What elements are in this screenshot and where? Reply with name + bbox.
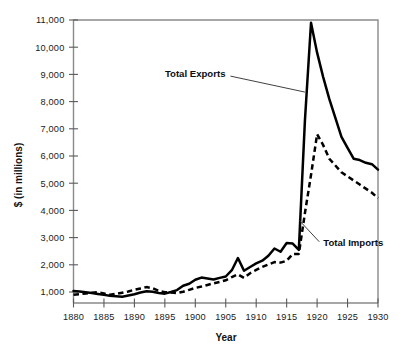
y-tick-label: 1,000: [41, 287, 65, 297]
annotation-total-imports: Total Imports: [299, 220, 384, 248]
x-tick-label: 1885: [93, 312, 114, 322]
y-tick-label: 9,000: [41, 70, 65, 80]
x-tick-label: 1910: [246, 312, 267, 322]
x-tick-label: 1905: [215, 312, 236, 322]
x-axis-tick-labels: 1880188518901895190019051910191519201925…: [63, 312, 389, 322]
y-tick-label: 4,000: [41, 206, 65, 216]
x-tick-label: 1895: [154, 312, 175, 322]
y-tick-label: 8,000: [41, 97, 65, 107]
x-tick-label: 1925: [337, 312, 358, 322]
y-tick-label: 5,000: [41, 179, 65, 189]
y-tick-label: 10,000: [35, 43, 64, 53]
annotation-label-total-exports: Total Exports: [165, 68, 226, 79]
x-axis-title: Year: [215, 332, 236, 343]
y-tick-label: 7,000: [41, 124, 65, 134]
y-axis-title: $ (in millions): [13, 143, 24, 207]
chart-container: 1,0002,0003,0004,0005,0006,0007,0008,000…: [0, 0, 403, 354]
y-tick-label: 3,000: [41, 233, 65, 243]
leader-line-exports: [230, 76, 304, 92]
line-chart: 1,0002,0003,0004,0005,0006,0007,0008,000…: [0, 0, 403, 354]
y-tick-label: 2,000: [41, 260, 65, 270]
x-tick-label: 1920: [306, 312, 327, 322]
series-line-total-imports: [74, 134, 379, 294]
x-tick-label: 1890: [124, 312, 145, 322]
x-tick-label: 1915: [276, 312, 297, 322]
x-tick-label: 1930: [367, 312, 388, 322]
x-axis-ticks: [74, 299, 379, 308]
x-tick-label: 1880: [63, 312, 84, 322]
series-line-total-exports: [74, 23, 379, 297]
y-tick-label: 6,000: [41, 151, 65, 161]
y-tick-label: 11,000: [36, 15, 65, 25]
y-axis-tick-labels: 1,0002,0003,0004,0005,0006,0007,0008,000…: [35, 15, 64, 297]
annotation-total-exports: Total Exports: [165, 68, 305, 92]
annotation-label-total-imports: Total Imports: [323, 237, 383, 248]
x-tick-label: 1900: [185, 312, 206, 322]
